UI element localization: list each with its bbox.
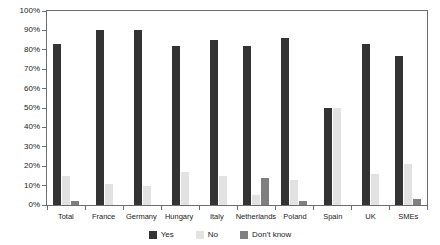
y-axis-tick-label: 30% bbox=[24, 142, 42, 150]
bar-group bbox=[275, 11, 313, 205]
legend-label: Don't know bbox=[252, 231, 291, 239]
legend-item[interactable]: Yes bbox=[149, 231, 174, 239]
y-axis-tick-label: 10% bbox=[24, 181, 42, 189]
bar bbox=[134, 30, 142, 205]
x-axis-tick-mark bbox=[427, 206, 428, 210]
y-axis-tick-label: 90% bbox=[24, 26, 42, 34]
y-axis-tick-label: 70% bbox=[24, 65, 42, 73]
bar-group bbox=[161, 11, 199, 205]
bar bbox=[333, 108, 341, 205]
bar-group bbox=[123, 11, 161, 205]
bar-group bbox=[351, 11, 389, 205]
legend-swatch-icon bbox=[240, 231, 248, 239]
bar-groups bbox=[47, 11, 427, 205]
bar bbox=[210, 40, 218, 205]
legend-label: No bbox=[208, 231, 218, 239]
y-axis-tick-label: 40% bbox=[24, 123, 42, 131]
y-axis-tick-label: 0% bbox=[28, 201, 42, 209]
bar-group bbox=[237, 11, 275, 205]
x-axis-label: Hungary bbox=[160, 210, 198, 224]
bar bbox=[261, 178, 269, 205]
bar bbox=[395, 56, 403, 205]
chart-legend: YesNoDon't know bbox=[0, 228, 440, 242]
bar bbox=[252, 195, 260, 205]
bar bbox=[143, 186, 151, 205]
y-axis-tick-label: 60% bbox=[24, 84, 42, 92]
x-axis-label: Total bbox=[47, 210, 85, 224]
bar bbox=[105, 184, 113, 205]
x-axis-label: UK bbox=[352, 210, 390, 224]
y-axis: 0%10%20%30%40%50%60%70%80%90%100% bbox=[0, 10, 46, 206]
x-axis-label: SMEs bbox=[389, 210, 427, 224]
x-axis: TotalFranceGermanyHungaryItalyNetherland… bbox=[46, 206, 428, 224]
x-axis-label: Poland bbox=[276, 210, 314, 224]
bar-group bbox=[199, 11, 237, 205]
x-axis-label: Germany bbox=[122, 210, 160, 224]
y-axis-tick-label: 20% bbox=[24, 162, 42, 170]
bar-group bbox=[85, 11, 123, 205]
legend-item[interactable]: No bbox=[196, 231, 218, 239]
bar-group bbox=[389, 11, 427, 205]
y-axis-tick-label: 50% bbox=[24, 104, 42, 112]
bar bbox=[413, 199, 421, 205]
bar-chart: 0%10%20%30%40%50%60%70%80%90%100% TotalF… bbox=[0, 0, 440, 245]
bar bbox=[281, 38, 289, 205]
bar bbox=[96, 30, 104, 205]
bar bbox=[53, 44, 61, 205]
y-axis-tick-label: 100% bbox=[20, 7, 42, 15]
x-axis-label: Netherlands bbox=[236, 210, 276, 224]
bar-group bbox=[313, 11, 351, 205]
bar bbox=[324, 108, 332, 205]
bar bbox=[71, 201, 79, 205]
bar bbox=[404, 164, 412, 205]
legend-swatch-icon bbox=[149, 231, 157, 239]
bar bbox=[243, 46, 251, 205]
y-axis-tick-label: 80% bbox=[24, 45, 42, 53]
legend-swatch-icon bbox=[196, 231, 204, 239]
bar bbox=[362, 44, 370, 205]
bar bbox=[62, 176, 70, 205]
bar-group bbox=[47, 11, 85, 205]
x-axis-labels: TotalFranceGermanyHungaryItalyNetherland… bbox=[47, 210, 427, 224]
x-axis-label: Spain bbox=[314, 210, 352, 224]
x-axis-label: France bbox=[85, 210, 123, 224]
x-axis-label: Italy bbox=[198, 210, 236, 224]
bar bbox=[181, 172, 189, 205]
bar bbox=[219, 176, 227, 205]
legend-label: Yes bbox=[161, 231, 174, 239]
bar bbox=[371, 174, 379, 205]
bar bbox=[290, 180, 298, 205]
legend-item[interactable]: Don't know bbox=[240, 231, 291, 239]
bar bbox=[299, 201, 307, 205]
bar bbox=[172, 46, 180, 205]
